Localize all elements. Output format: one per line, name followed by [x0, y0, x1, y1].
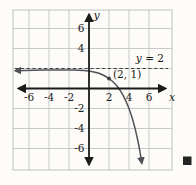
- end-of-example-marker: [183, 157, 192, 166]
- y-tick-label: -2: [74, 102, 84, 114]
- x-tick-label: -2: [64, 91, 74, 103]
- x-tick-label: -6: [24, 91, 35, 103]
- asymptote-label-value: = 2: [145, 52, 164, 64]
- x-tick-label: 4: [126, 91, 133, 103]
- x-tick-label: 6: [146, 91, 153, 103]
- point-label: (2, 1): [113, 68, 141, 80]
- x-tick-label: -4: [44, 91, 55, 103]
- coordinate-graph: -6-4-224664-2-4-6 y x y= 2 (2, 1): [0, 0, 196, 185]
- y-tick-label: -6: [74, 142, 85, 154]
- y-tick-label: 6: [78, 22, 85, 34]
- x-axis-label: x: [169, 91, 176, 104]
- y-tick-label: 4: [78, 42, 85, 54]
- y-tick-label: -4: [74, 122, 85, 134]
- x-tick-label: 2: [106, 91, 113, 103]
- y-axis-label: y: [93, 9, 101, 22]
- point-marker: [107, 77, 111, 81]
- asymptote-label-variable: y: [135, 52, 143, 64]
- asymptote-label: y= 2: [135, 52, 164, 64]
- graph-figure: -6-4-224664-2-4-6 y x y= 2 (2, 1): [0, 0, 196, 185]
